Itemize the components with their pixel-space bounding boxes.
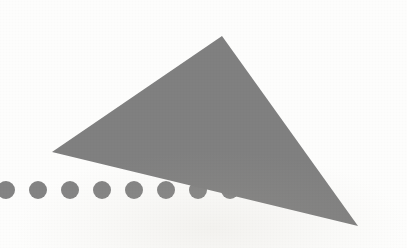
geometric-figure bbox=[0, 0, 407, 248]
dot-marker bbox=[93, 181, 111, 199]
figure-canvas bbox=[0, 0, 407, 248]
dot-marker bbox=[125, 181, 143, 199]
dot-marker bbox=[157, 181, 175, 199]
dot-marker bbox=[29, 181, 47, 199]
dot-marker bbox=[61, 181, 79, 199]
